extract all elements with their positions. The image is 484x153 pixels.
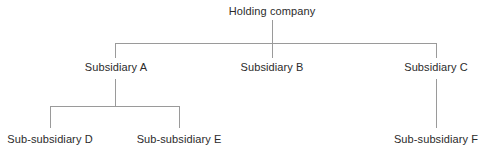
connector-lines	[0, 0, 484, 153]
node-sub-subsidiary-e: Sub-subsidiary E	[137, 133, 222, 146]
node-subsidiary-c: Subsidiary C	[404, 61, 468, 74]
node-holding-company: Holding company	[229, 5, 316, 18]
node-subsidiary-b: Subsidiary B	[241, 61, 304, 74]
node-subsidiary-a: Subsidiary A	[85, 61, 147, 74]
node-sub-subsidiary-f: Sub-subsidiary F	[394, 133, 478, 146]
node-sub-subsidiary-d: Sub-subsidiary D	[7, 133, 92, 146]
org-chart-diagram: Holding company Subsidiary A Subsidiary …	[0, 0, 484, 153]
